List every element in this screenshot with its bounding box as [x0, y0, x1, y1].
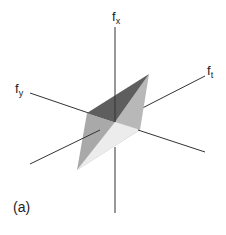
- fy-axis-front: [138, 130, 205, 152]
- frequency-plane-diagram: [0, 0, 226, 235]
- panel-label: (a): [13, 200, 30, 214]
- fy-axis-label: fy: [15, 82, 23, 95]
- ft-axis-label: ft: [207, 64, 213, 77]
- fx-axis-label: fx: [112, 10, 120, 23]
